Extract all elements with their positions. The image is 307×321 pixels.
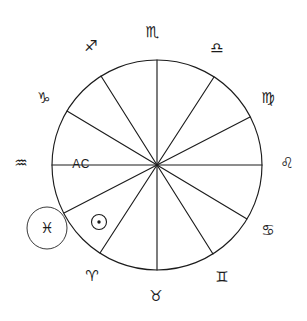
sign-glyph-sagittarius: ♐: [84, 39, 97, 54]
sign-glyph-gemini: ♊: [215, 270, 228, 285]
sign-glyph-aquarius: ♒: [14, 156, 27, 171]
sign-glyph-aries: ♈: [85, 269, 98, 284]
sign-glyph-capricorn: ♑: [37, 91, 50, 106]
sun-marker-graphic: [92, 215, 107, 230]
sign-glyph-taurus: ♉: [149, 289, 162, 304]
sign-glyph-scorpio: ♏: [145, 25, 158, 40]
sign-glyph-leo: ♌: [280, 156, 293, 171]
wheel-graphic: [0, 0, 307, 321]
ascendant-label: AC: [72, 158, 90, 170]
sign-glyph-libra: ♎: [210, 41, 223, 56]
sign-glyph-pisces: ♓: [40, 221, 53, 236]
astrology-chart-wheel: ♏ ♎ ♍ ♌ ♋ ♊ ♉ ♈ ♓ ♒ ♑ ♐ AC: [0, 0, 307, 321]
sign-glyph-cancer: ♋: [261, 223, 274, 238]
sign-glyph-virgo: ♍: [261, 91, 274, 106]
